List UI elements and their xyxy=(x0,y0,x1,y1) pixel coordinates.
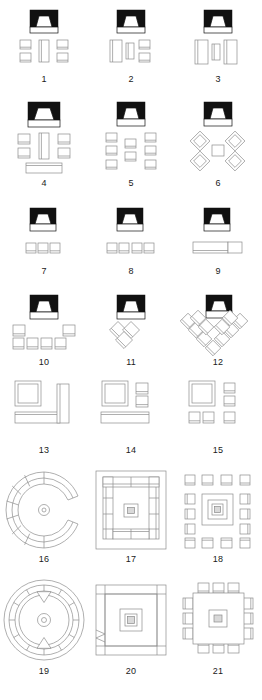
figure-caption: 16 xyxy=(0,554,88,564)
seat-group xyxy=(195,40,237,64)
round-table-group xyxy=(190,131,245,171)
figure-cell[interactable]: 13 xyxy=(0,378,88,460)
figure-8-diagram xyxy=(87,203,175,265)
seat-group xyxy=(26,243,60,253)
figure-caption: 14 xyxy=(87,445,175,455)
figure-caption: 19 xyxy=(0,666,88,676)
square-table-seating-group xyxy=(183,583,253,653)
figure-13-diagram xyxy=(0,378,88,444)
seat-group xyxy=(13,325,75,349)
figure-cell[interactable]: 9 xyxy=(174,203,262,283)
screen-icon xyxy=(204,102,232,126)
horseshoe-group xyxy=(6,472,78,548)
screen-icon xyxy=(117,295,145,319)
figure-17-diagram xyxy=(87,466,175,554)
screen-icon xyxy=(204,208,230,231)
figure-cell[interactable]: 20 xyxy=(87,573,175,683)
figure-caption: 2 xyxy=(87,74,175,84)
screen-icon xyxy=(30,295,58,319)
figure-caption: 4 xyxy=(0,178,88,188)
figure-cell[interactable]: 5 xyxy=(87,97,175,192)
figure-cell[interactable]: 12 xyxy=(174,292,262,372)
layout-icon-sheet: 1 2 xyxy=(0,0,262,700)
figure-19-diagram xyxy=(0,573,88,667)
figure-9-diagram xyxy=(174,203,262,265)
hollow-square-group xyxy=(185,475,250,548)
figure-cell[interactable]: 3 xyxy=(174,2,262,90)
figure-6-diagram xyxy=(174,97,262,177)
full-circle-group xyxy=(4,580,84,660)
screen-icon xyxy=(117,10,145,33)
figure-14-diagram xyxy=(87,378,175,444)
figure-caption: 9 xyxy=(174,266,262,276)
screen-icon xyxy=(30,10,58,33)
figure-18-diagram xyxy=(174,466,262,554)
figure-15-diagram xyxy=(174,378,262,444)
figure-cell[interactable]: 11 xyxy=(87,292,175,372)
chevron-seat-group xyxy=(110,322,140,349)
figure-caption: 1 xyxy=(0,74,88,84)
figure-cell[interactable]: 19 xyxy=(0,573,88,683)
seat-group xyxy=(18,133,70,173)
figure-cell[interactable]: 2 xyxy=(87,2,175,90)
figure-5-diagram xyxy=(87,97,175,177)
figure-3-diagram xyxy=(174,2,262,74)
figure-20-diagram xyxy=(87,573,175,667)
figure-cell[interactable]: 8 xyxy=(87,203,175,283)
lounge-group xyxy=(189,381,235,423)
figure-cell[interactable]: 4 xyxy=(0,97,88,192)
figure-cell[interactable]: 21 xyxy=(174,573,262,683)
screen-icon xyxy=(204,10,232,33)
figure-4-diagram xyxy=(0,97,88,177)
figure-caption: 13 xyxy=(0,445,88,455)
seat-group xyxy=(106,133,156,169)
seat-group xyxy=(20,40,68,62)
lounge-group xyxy=(15,381,69,423)
figure-caption: 20 xyxy=(87,666,175,676)
closed-square-group xyxy=(96,585,166,655)
figure-7-diagram xyxy=(0,203,88,265)
seat-group xyxy=(193,242,242,253)
figure-caption: 10 xyxy=(0,357,88,367)
figure-caption: 5 xyxy=(87,178,175,188)
figure-cell[interactable]: 14 xyxy=(87,378,175,460)
figure-cell[interactable]: 15 xyxy=(174,378,262,460)
figure-cell[interactable]: 10 xyxy=(0,292,88,372)
screen-icon xyxy=(117,102,145,126)
screen-icon xyxy=(117,208,143,231)
figure-cell[interactable]: 6 xyxy=(174,97,262,192)
seat-group xyxy=(110,40,150,62)
figure-caption: 7 xyxy=(0,266,88,276)
figure-caption: 11 xyxy=(87,357,175,367)
figure-10-diagram xyxy=(0,292,88,356)
figure-12-diagram xyxy=(174,292,262,356)
figure-cell[interactable]: 7 xyxy=(0,203,88,283)
figure-caption: 18 xyxy=(174,554,262,564)
figure-11-diagram xyxy=(87,292,175,356)
u-shape-group xyxy=(96,471,166,549)
seat-group xyxy=(107,243,154,253)
figure-caption: 6 xyxy=(174,178,262,188)
figure-caption: 12 xyxy=(174,357,262,367)
figure-caption: 21 xyxy=(174,666,262,676)
lounge-group xyxy=(101,381,149,423)
figure-1-diagram xyxy=(0,2,88,74)
figure-caption: 8 xyxy=(87,266,175,276)
figure-caption: 3 xyxy=(174,74,262,84)
figure-cell[interactable]: 17 xyxy=(87,466,175,566)
figure-cell[interactable]: 1 xyxy=(0,2,88,90)
screen-icon xyxy=(30,208,56,231)
figure-16-diagram xyxy=(0,466,88,554)
screen-icon xyxy=(28,102,60,127)
figure-caption: 17 xyxy=(87,554,175,564)
figure-cell[interactable]: 18 xyxy=(174,466,262,566)
figure-2-diagram xyxy=(87,2,175,74)
figure-21-diagram xyxy=(174,573,262,667)
figure-caption: 15 xyxy=(174,445,262,455)
figure-cell[interactable]: 16 xyxy=(0,466,88,566)
